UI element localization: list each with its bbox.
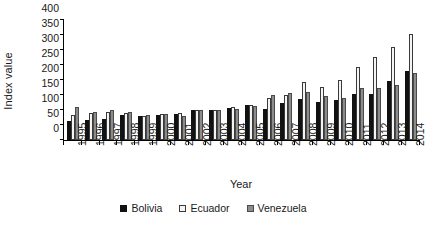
x-axis-tick-label: 1997 [112, 123, 124, 146]
x-axis-tick-label: 2014 [414, 123, 426, 146]
y-axis-tick-label: 0 [29, 122, 59, 134]
x-axis-tick-label: 2007 [290, 123, 302, 146]
x-axis-tick-label: 2004 [236, 123, 248, 146]
x-axis-tick-labels: 1995199619971998199920002001200220032004… [63, 146, 419, 176]
x-axis-tick-label: 2012 [379, 123, 391, 146]
bar-chart: Index value 050100150200250300350400 199… [0, 0, 427, 231]
y-axis-tick-label: 250 [29, 47, 59, 59]
x-axis-tick-label: 1996 [94, 123, 106, 146]
y-axis-tick-label: 50 [29, 107, 59, 119]
y-axis-title-text: Index value [2, 26, 14, 136]
x-axis-tick-label: 1998 [129, 123, 141, 146]
y-axis-tick-label: 300 [29, 32, 59, 44]
chart-legend: BoliviaEcuadorVenezuela [0, 202, 427, 214]
legend-label: Venezuela [258, 202, 307, 214]
y-axis-tick-label: 100 [29, 92, 59, 104]
legend-label: Ecuador [190, 202, 229, 214]
x-axis-tick-label: 2001 [183, 123, 195, 146]
legend-item-ecuador: Ecuador [179, 202, 229, 214]
x-axis-tick-label: 2000 [165, 123, 177, 146]
legend-item-venezuela: Venezuela [247, 202, 307, 214]
x-axis-title: Year [63, 178, 419, 190]
x-axis-tick-label: 2011 [361, 123, 373, 146]
y-axis-tick-label: 400 [29, 2, 59, 14]
x-axis-tick-label: 2009 [325, 123, 337, 146]
x-axis-tick-label: 1999 [147, 123, 159, 146]
x-axis-tick-label: 2003 [218, 123, 230, 146]
legend-swatch-icon [179, 205, 186, 212]
legend-label: Bolivia [131, 202, 162, 214]
y-axis-tick-label: 350 [29, 17, 59, 29]
x-axis-tick-label: 2005 [254, 123, 266, 146]
legend-item-bolivia: Bolivia [120, 202, 162, 214]
x-axis-tick-label: 2008 [307, 123, 319, 146]
x-axis-tick-label: 2002 [201, 123, 213, 146]
y-axis-title: Index value [2, 0, 16, 26]
y-axis-tick-label: 200 [29, 62, 59, 74]
x-axis-tick-label: 1995 [76, 123, 88, 146]
legend-swatch-icon [247, 205, 254, 212]
x-axis-tick [63, 141, 64, 145]
x-axis-tick-label: 2013 [396, 123, 408, 146]
x-axis-tick-label: 2010 [343, 123, 355, 146]
x-axis-tick-label: 2006 [272, 123, 284, 146]
y-axis-tick-label: 150 [29, 77, 59, 89]
legend-swatch-icon [120, 205, 127, 212]
